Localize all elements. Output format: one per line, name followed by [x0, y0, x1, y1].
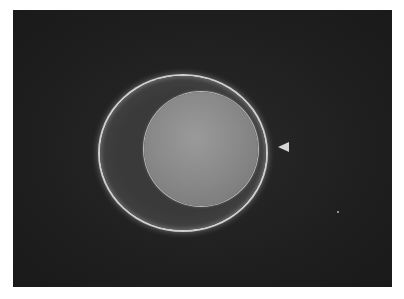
oocyte-cytoplasm [144, 92, 258, 206]
arrowhead-pointer-icon [278, 142, 289, 152]
debris-speck [337, 211, 339, 213]
micrograph-frame [13, 10, 392, 287]
